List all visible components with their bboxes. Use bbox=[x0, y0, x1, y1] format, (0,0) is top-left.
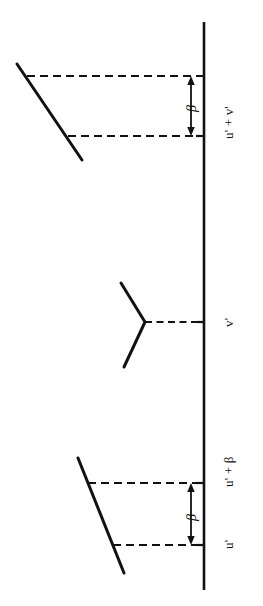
beta-bottom-arrowhead-down bbox=[187, 536, 194, 545]
axis-label-u-prime-plus-beta: u' + β bbox=[221, 457, 237, 488]
beta-top-arrowhead-up bbox=[187, 76, 194, 85]
axis-label-u-prime: u' bbox=[221, 540, 237, 549]
figure-canvas: u' + v' v' u' + β u' β β bbox=[0, 0, 263, 606]
lower-branch-diagonal bbox=[78, 458, 124, 573]
beta-top-arrowhead-down bbox=[187, 127, 194, 136]
axis-label-v-prime: v' bbox=[221, 318, 237, 327]
axis-label-u-prime-plus-v-prime: u' + v' bbox=[221, 106, 237, 139]
beta-label-top: β bbox=[184, 105, 200, 112]
upper-branch-diagonal bbox=[17, 64, 82, 160]
beta-bottom-arrowhead-up bbox=[187, 483, 194, 492]
vertex-branch-arms bbox=[121, 283, 145, 367]
beta-label-bottom: β bbox=[184, 514, 200, 521]
line-diagram bbox=[0, 0, 263, 606]
